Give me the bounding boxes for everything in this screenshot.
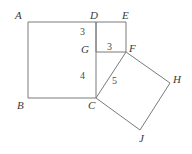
vertex-label-b: B bbox=[17, 100, 24, 111]
square-abcd bbox=[28, 22, 96, 98]
geometry-canvas bbox=[0, 0, 192, 154]
measure-label-gf: 3 bbox=[107, 42, 112, 52]
vertex-label-h: H bbox=[173, 74, 181, 85]
geometry-figure: A B C D E F G H J 3 3 4 5 bbox=[0, 0, 192, 154]
vertex-label-a: A bbox=[15, 10, 22, 21]
measure-label-dg: 3 bbox=[80, 27, 85, 37]
vertex-label-c: C bbox=[88, 100, 95, 111]
vertex-label-d: D bbox=[90, 10, 98, 21]
vertex-label-e: E bbox=[122, 10, 129, 21]
measure-label-cf: 5 bbox=[112, 76, 117, 86]
vertex-label-j: J bbox=[139, 133, 144, 144]
measure-label-gc: 4 bbox=[80, 71, 85, 81]
square-cfhj bbox=[96, 52, 170, 130]
vertex-label-f: F bbox=[129, 43, 136, 54]
vertex-label-g: G bbox=[81, 44, 89, 55]
